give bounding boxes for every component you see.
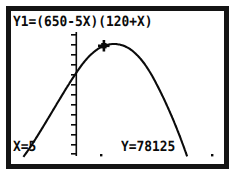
calculator-screenshot: Y1=(650-5X)(120+X) X=5 Y=78125: [0, 0, 235, 175]
equation-label: Y1=(650-5X)(120+X): [13, 14, 153, 30]
y-axis: [71, 32, 77, 156]
y-coordinate-readout: Y=78125: [121, 139, 175, 155]
lcd-screen[interactable]: Y1=(650-5X)(120+X) X=5 Y=78125: [11, 11, 224, 164]
graph-plot-area[interactable]: [11, 11, 224, 164]
trace-cursor-icon: [98, 40, 110, 52]
x-coordinate-readout: X=5: [13, 139, 36, 155]
